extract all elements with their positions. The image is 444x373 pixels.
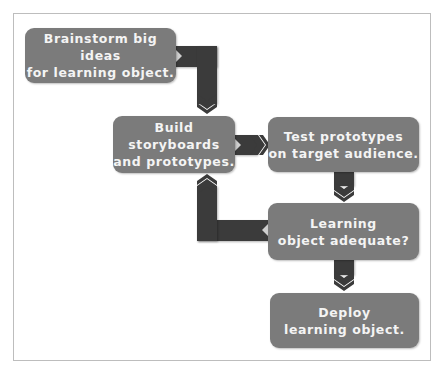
node-adequate: Learning object adequate? — [268, 203, 419, 260]
notch-brainstorm-out — [176, 50, 182, 62]
connector-adequate-build-vertical — [197, 186, 217, 241]
node-brainstorm: Brainstorm big ideas for learning object… — [25, 28, 176, 83]
notch-build-out — [235, 139, 241, 151]
chevron-down-icon — [334, 182, 354, 202]
chevron-up-icon — [197, 174, 217, 194]
node-deploy: Deploy learning object. — [270, 293, 419, 348]
node-brainstorm-label: Brainstorm big ideas for learning object… — [25, 30, 176, 81]
node-test: Test prototypes on target audience. — [268, 117, 419, 172]
node-test-label: Test prototypes on target audience. — [268, 128, 418, 162]
node-build-label: Build storyboards and prototypes. — [113, 119, 235, 170]
node-build: Build storyboards and prototypes. — [113, 116, 235, 173]
chevron-down-icon — [197, 94, 217, 114]
node-adequate-label: Learning object adequate? — [278, 215, 409, 249]
node-deploy-label: Deploy learning object. — [284, 304, 405, 338]
chevron-right-icon — [250, 135, 270, 155]
chevron-down-icon — [334, 271, 354, 291]
